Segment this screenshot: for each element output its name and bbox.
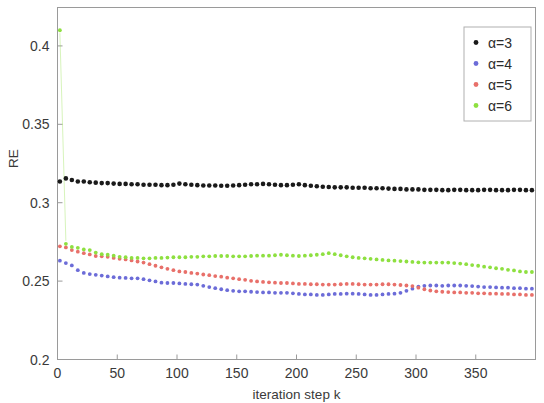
data-point bbox=[524, 188, 529, 193]
data-point bbox=[405, 284, 409, 288]
chart-figure: 0501001502002503003500.20.250.30.350.4it… bbox=[0, 0, 544, 403]
data-point bbox=[512, 188, 517, 193]
data-point bbox=[279, 281, 283, 285]
data-point bbox=[512, 293, 516, 297]
data-point bbox=[363, 283, 367, 287]
data-point bbox=[189, 255, 193, 259]
data-point bbox=[117, 182, 122, 187]
data-point bbox=[243, 254, 247, 258]
legend-marker-2[interactable] bbox=[474, 61, 479, 66]
x-tick-label: 50 bbox=[109, 365, 125, 381]
data-point bbox=[94, 254, 98, 258]
data-point bbox=[344, 185, 349, 190]
data-point bbox=[393, 292, 397, 296]
data-point bbox=[195, 183, 200, 188]
data-point bbox=[136, 256, 140, 260]
data-point bbox=[267, 280, 271, 284]
data-point bbox=[148, 278, 152, 282]
data-point bbox=[166, 256, 170, 260]
data-point bbox=[356, 186, 361, 191]
data-point bbox=[494, 266, 498, 270]
data-point bbox=[207, 254, 211, 258]
data-point bbox=[225, 183, 230, 188]
data-point bbox=[82, 271, 86, 275]
data-point bbox=[142, 261, 146, 265]
legend-marker-3[interactable] bbox=[474, 82, 479, 87]
data-point bbox=[494, 285, 498, 289]
data-point bbox=[58, 244, 62, 248]
data-point bbox=[321, 252, 325, 256]
data-point bbox=[81, 179, 86, 184]
data-point bbox=[70, 178, 75, 183]
data-point bbox=[506, 268, 510, 272]
data-point bbox=[416, 286, 420, 290]
data-point bbox=[273, 281, 277, 285]
data-point bbox=[249, 290, 253, 294]
chart-legend[interactable]: α=3α=4α=5α=6 bbox=[464, 27, 531, 121]
data-point bbox=[338, 185, 343, 190]
data-point bbox=[422, 287, 426, 291]
data-point bbox=[452, 284, 456, 288]
data-point bbox=[177, 255, 181, 259]
data-point bbox=[333, 292, 337, 296]
legend-marker-4[interactable] bbox=[474, 103, 479, 108]
data-point bbox=[130, 256, 134, 260]
data-point bbox=[285, 253, 289, 257]
data-point bbox=[201, 254, 205, 258]
legend-label-3[interactable]: α=5 bbox=[488, 77, 512, 93]
data-point bbox=[363, 293, 367, 297]
data-point bbox=[470, 291, 474, 295]
data-point bbox=[446, 261, 450, 265]
data-point bbox=[434, 289, 438, 293]
data-point bbox=[273, 291, 277, 295]
data-point bbox=[476, 188, 481, 193]
data-point bbox=[470, 188, 475, 193]
data-point bbox=[518, 269, 522, 273]
data-point bbox=[291, 291, 295, 295]
data-point bbox=[399, 291, 403, 295]
data-point bbox=[130, 276, 134, 280]
legend-label-1[interactable]: α=3 bbox=[488, 35, 512, 51]
data-point bbox=[404, 187, 409, 192]
data-point bbox=[213, 286, 217, 290]
legend-label-4[interactable]: α=6 bbox=[488, 98, 512, 114]
data-point bbox=[327, 293, 331, 297]
data-point bbox=[458, 284, 462, 288]
data-point bbox=[405, 260, 409, 264]
data-point bbox=[494, 188, 499, 193]
data-point bbox=[201, 284, 205, 288]
data-point bbox=[393, 259, 397, 263]
data-point bbox=[309, 183, 314, 188]
data-point bbox=[440, 284, 444, 288]
data-point bbox=[393, 283, 397, 287]
data-point bbox=[261, 254, 265, 258]
data-point bbox=[321, 293, 325, 297]
data-point bbox=[237, 183, 242, 188]
data-point bbox=[518, 293, 522, 297]
data-point bbox=[136, 260, 140, 264]
data-point bbox=[177, 181, 182, 186]
data-point bbox=[488, 292, 492, 296]
data-point bbox=[506, 188, 511, 193]
data-point bbox=[291, 182, 296, 187]
legend-marker-1[interactable] bbox=[474, 40, 479, 45]
data-point bbox=[237, 289, 241, 293]
y-tick-label: 0.25 bbox=[22, 273, 49, 289]
legend-label-2[interactable]: α=4 bbox=[488, 56, 512, 72]
data-point bbox=[285, 291, 289, 295]
data-point bbox=[249, 279, 253, 283]
data-point bbox=[392, 187, 397, 192]
data-point bbox=[154, 280, 158, 284]
data-point bbox=[166, 267, 170, 271]
data-point bbox=[189, 282, 193, 286]
data-point bbox=[357, 292, 361, 296]
y-tick-label: 0.4 bbox=[30, 38, 50, 54]
data-point bbox=[154, 264, 158, 268]
data-point bbox=[327, 283, 331, 287]
data-point bbox=[452, 261, 456, 265]
data-point bbox=[183, 255, 187, 259]
data-point bbox=[482, 291, 486, 295]
data-point bbox=[416, 187, 421, 192]
data-point bbox=[279, 253, 283, 257]
data-point bbox=[506, 292, 510, 296]
